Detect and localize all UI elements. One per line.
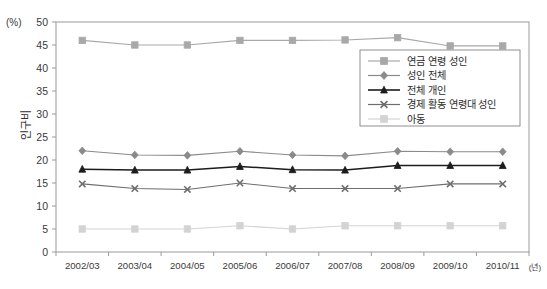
x-tick-label: 2006/07 (275, 260, 310, 271)
data-point-square (381, 116, 388, 123)
x-tick-label: 2005/06 (223, 260, 258, 271)
line-chart: 05101520253035404550 2002/032003/042004/… (0, 0, 547, 289)
legend-label: 성인 전체 (407, 70, 446, 81)
y-tick-label: 30 (36, 108, 48, 120)
y-tick-label: 20 (36, 154, 48, 166)
data-point-square (394, 34, 400, 40)
y-tick-label: 40 (36, 62, 48, 74)
legend-label: 경제 활동 연령대 성인 (407, 98, 497, 110)
y-tick-label: 50 (36, 16, 48, 28)
legend-label: 아동 (407, 114, 425, 125)
y-tick-label: 10 (36, 200, 48, 212)
y-tick-label: 15 (36, 177, 48, 189)
x-tick-label: 2008/09 (380, 260, 415, 271)
x-tick-label: 2003/04 (117, 260, 152, 271)
data-point-square (342, 37, 348, 43)
data-point-square (79, 37, 85, 43)
x-tick-label: 2002/03 (65, 260, 100, 271)
y-tick-label: 5 (42, 223, 48, 235)
x-tick-label: 2007/08 (328, 260, 363, 271)
x-axis-unit-label: (년) (529, 262, 542, 272)
data-point-square (132, 42, 138, 48)
x-tick-label: 2010/11 (486, 260, 520, 271)
data-point-square (381, 58, 388, 65)
data-point-square (447, 43, 453, 49)
y-tick-label: 0 (42, 246, 48, 258)
y-tick-label: 35 (36, 85, 48, 97)
legend-label: 전체 개인 (407, 85, 446, 96)
data-point-square (500, 43, 506, 49)
y-axis-unit-label: (%) (6, 17, 22, 28)
data-point-square (132, 226, 138, 232)
data-point-square (289, 226, 295, 232)
y-tick-label: 45 (36, 39, 48, 51)
data-point-square (447, 223, 453, 229)
y-tick-label: 25 (36, 131, 48, 143)
x-tick-label: 2009/10 (433, 260, 468, 271)
chart-legend: 연금 연령 성인성인 전체전체 개인경제 활동 연령대 성인아동 (360, 50, 520, 126)
data-point-square (237, 37, 243, 43)
data-point-square (79, 226, 85, 232)
y-axis-title: 인구비 (20, 110, 32, 140)
chart-container: 05101520253035404550 2002/032003/042004/… (0, 0, 547, 289)
data-point-square (184, 42, 190, 48)
data-point-square (500, 223, 506, 229)
data-point-square (289, 37, 295, 43)
data-point-square (237, 223, 243, 229)
data-point-square (184, 226, 190, 232)
x-axis: 2002/032003/042004/052005/062006/072007/… (56, 252, 541, 272)
data-point-square (342, 223, 348, 229)
y-axis: 05101520253035404550 (36, 16, 56, 258)
x-tick-label: 2004/05 (170, 260, 205, 271)
data-point-square (394, 223, 400, 229)
legend-label: 연금 연령 성인 (407, 56, 467, 67)
